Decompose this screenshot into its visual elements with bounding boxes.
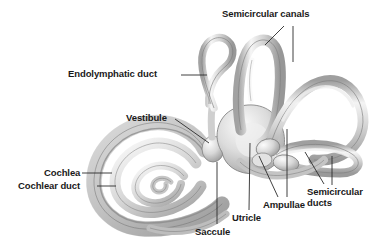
saccule-neck — [211, 108, 212, 137]
label-semicircular-canals: Semicircular canals — [222, 8, 309, 19]
label-endolymphatic-duct: Endolymphatic duct — [68, 68, 157, 79]
cochlea-third-turn — [135, 165, 184, 203]
inner-ear-diagram: Semicircular canals Endolymphatic duct V… — [0, 0, 384, 242]
posterior-canal-highlight — [283, 87, 353, 120]
label-semicircular-ducts: Semicircular ducts — [307, 186, 377, 208]
label-cochlea: Cochlea — [44, 167, 80, 178]
endolymphatic-duct-tube — [202, 38, 233, 108]
label-ampullae: Ampullae — [263, 199, 305, 210]
label-utricle: Utricle — [232, 212, 261, 223]
label-cochlear-duct: Cochlear duct — [18, 180, 80, 191]
label-saccule: Saccule — [195, 226, 230, 237]
label-vestibule: Vestibule — [126, 112, 167, 123]
endolymphatic-duct-group — [201, 38, 233, 108]
